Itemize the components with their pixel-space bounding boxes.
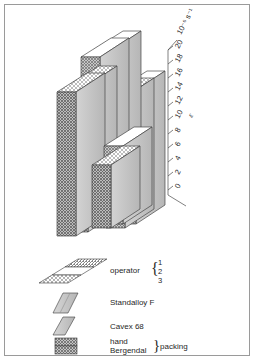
tick-label: 0 <box>173 182 183 190</box>
legend-swatch-standalloy <box>53 293 78 313</box>
tick-label: 10 <box>173 108 185 120</box>
legend-label-packing-bergendal: Bergendal <box>110 346 147 355</box>
bars-group <box>57 31 165 236</box>
tick-label: 18 <box>173 52 185 64</box>
bar-chart-3d: 20 18 16 14 12 10 8 6 4 2 0 10⁻⁶ s⁻¹ ε <box>5 5 251 250</box>
legend-operator-item: 2 <box>158 267 162 276</box>
tick-label: 8 <box>173 126 183 134</box>
legend-swatch-packing <box>55 338 77 354</box>
legend-label-cavex: Cavex 68 <box>110 322 144 331</box>
legend-svg: operator { 1 2 3 Standalloy F Cavex 68 h… <box>5 243 251 355</box>
legend-label-operator: operator <box>110 266 140 275</box>
tick-label: 20 <box>173 38 185 50</box>
axis-ticks <box>168 46 173 190</box>
legend-operator-item: 1 <box>158 258 162 267</box>
tick-label: 16 <box>173 66 185 78</box>
tick-label: 4 <box>173 154 183 162</box>
legend-label-packing: packing <box>160 342 188 351</box>
tick-label: 12 <box>173 94 185 106</box>
chart-svg: 20 18 16 14 12 10 8 6 4 2 0 10⁻⁶ s⁻¹ ε <box>5 5 251 250</box>
legend: operator { 1 2 3 Standalloy F Cavex 68 h… <box>5 243 251 355</box>
value-axis <box>168 40 186 206</box>
legend-label-standalloy: Standalloy F <box>110 298 155 307</box>
figure-frame: 20 18 16 14 12 10 8 6 4 2 0 10⁻⁶ s⁻¹ ε <box>4 4 250 356</box>
legend-swatch-cavex <box>53 317 75 335</box>
axis-tick-labels: 20 18 16 14 12 10 8 6 4 2 0 <box>173 38 185 190</box>
legend-operator-item: 3 <box>158 276 162 285</box>
tick-label: 6 <box>173 140 183 148</box>
axis-unit-label: 10⁻⁶ s⁻¹ <box>175 7 196 36</box>
axis-variable-symbol: ε <box>186 111 196 119</box>
tick-label: 2 <box>173 168 183 176</box>
legend-label-packing-hand: hand <box>110 337 128 346</box>
tick-label: 14 <box>173 80 185 92</box>
legend-swatch-operator <box>39 259 107 283</box>
